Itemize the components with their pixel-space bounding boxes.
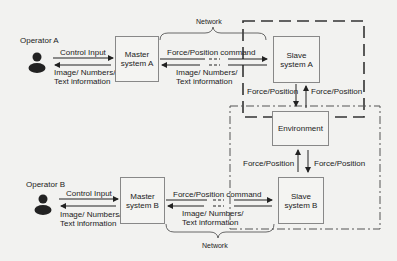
env-to-slave-a-label: Force/Position [311,87,362,96]
net-feedback-a-label-1: Image/ Numbers/ [176,68,237,77]
network-bottom-label: Network [202,241,228,250]
person-icon [34,194,52,216]
operator-b-label: Operator B [26,180,65,189]
operator-a-label: Operator A [20,36,59,45]
feedback-b-label-1: Image/ Numbers/ [60,210,121,219]
slave-a-line1: Slave [286,51,306,60]
slave-a-to-env-label: Force/Position [247,87,298,96]
slave-b-line2: system B [285,201,318,210]
slave-a-line2: system A [280,60,312,69]
person-icon [28,52,46,74]
environment-box: Environment [272,111,329,146]
slave-system-b-box: Slavesystem B [278,177,324,224]
net-feedback-a-label-2: Text information [176,77,232,86]
network-top-label: Network [196,17,222,26]
control-input-a-label: Control Input [60,48,106,57]
feedback-a-label-1: Image/ Numbers/ [54,68,115,77]
net-feedback-b-label-2: Text information [182,218,238,227]
slave-b-to-env-label: Force/Position [314,159,365,168]
slave-system-a-box: Slavesystem A [273,36,320,83]
control-input-b-label: Control Input [66,189,112,198]
master-system-a-box: Mastersystem A [115,36,159,82]
env-to-slave-b-label: Force/Position [243,159,294,168]
master-b-line1: Master [130,192,154,201]
master-system-b-box: Mastersystem B [120,177,165,224]
environment-label: Environment [278,124,323,133]
master-a-line2: system A [121,59,153,68]
net-feedback-b-label-1: Image/ Numbers/ [182,209,243,218]
feedback-b-label-2: Text information [60,219,116,228]
slave-b-line1: Slave [291,192,311,201]
feedback-a-label-2: Text information [54,77,110,86]
master-a-line1: Master [125,50,149,59]
command-b-label: Force/Position command [173,190,261,199]
command-a-label: Force/Position command [167,48,255,57]
master-b-line2: system B [126,201,159,210]
